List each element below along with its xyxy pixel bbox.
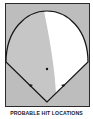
pitchers-mound-marker [46,68,48,70]
hit-location-diagram [0,0,93,108]
diagram-caption: PROBABLE HIT LOCATIONS [0,108,93,119]
